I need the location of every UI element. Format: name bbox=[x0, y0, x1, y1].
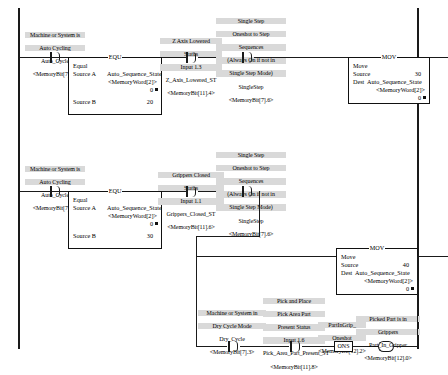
rung2-branch-left-vertical-long bbox=[196, 256, 197, 346]
rung2-part-in-gripper-label: Picked Part is in Grippers Part_In_Gripp… bbox=[356, 309, 420, 368]
rung2-pick-area-desc3: Present Status bbox=[263, 324, 325, 331]
contact-bar-right bbox=[56, 186, 60, 197]
rung2-wire-branch-left-vertical bbox=[196, 236, 197, 256]
rung2-mov-row-dest: Dest Auto_Sequence_State bbox=[341, 269, 413, 277]
rung2-mov-dest-value-dot bbox=[411, 287, 414, 290]
rung1-contact-single-step[interactable] bbox=[240, 52, 254, 63]
rung2-branch-right-vertical bbox=[417, 256, 418, 346]
rung2-equ-srca-value: 0 bbox=[150, 220, 153, 228]
rung1-equ-block[interactable]: EQU Equal Source A Auto_Sequence_State <… bbox=[68, 57, 162, 115]
rung2-ons-block[interactable]: ONS bbox=[334, 341, 353, 352]
rung1-equ-row-srca-addr: <MemoryWord[2]> bbox=[73, 78, 157, 86]
contact-bar-left bbox=[242, 52, 244, 63]
rung2-pick-area-desc1: Pick and Place bbox=[263, 298, 325, 305]
rung2-branch-coil-to-rail bbox=[394, 346, 418, 347]
rung2-mov-row-source: Source 40 bbox=[341, 261, 413, 269]
rung2-mov-dest-tag: Auto_Sequence_State bbox=[355, 269, 410, 277]
rung1-equ-row-srca: Source A Auto_Sequence_State bbox=[73, 70, 157, 78]
rung2-equ-body: Equal Source A Auto_Sequence_State <Memo… bbox=[69, 192, 161, 240]
rung1-mov-row-dest-addr: <MemoryWord[2]> bbox=[353, 86, 425, 94]
rung2-contact-grippers-closed[interactable] bbox=[184, 186, 198, 197]
rung1-equ-srcb-value: 20 bbox=[147, 98, 153, 106]
rung2-pick-area-desc2: Pick Area Part bbox=[263, 311, 325, 318]
rung1-mov-dest-value-dot bbox=[423, 96, 426, 99]
rung1-ss-desc3: Sequences bbox=[216, 44, 286, 51]
rung1-mov-source-value: 30 bbox=[415, 70, 421, 78]
rung2-part-in-gripper-desc1: Picked Part is in bbox=[356, 316, 420, 323]
rung1-equ-srca-value-dot bbox=[155, 88, 158, 91]
rung2-equ-op-name: Equal bbox=[73, 196, 87, 204]
rung2-mov-source-value: 40 bbox=[403, 261, 409, 269]
rung2-equ-block[interactable]: EQU Equal Source A Auto_Sequence_State <… bbox=[68, 191, 162, 249]
contact-bar-right bbox=[296, 341, 300, 352]
rung2-mov-dest-label: Dest bbox=[341, 269, 352, 277]
contact-bar-left bbox=[50, 52, 52, 63]
rung2-pick-area-label: Pick and Place Pick Area Part Present St… bbox=[263, 291, 325, 375]
rung2-mov-row-dest-val: 0 bbox=[341, 285, 413, 293]
rung2-equ-row-srca-val: 0 bbox=[73, 220, 157, 228]
rung2-equ-srca-address: <MemoryWord[2]> bbox=[108, 212, 157, 220]
rung1-ss-desc2: Oneshot to Step bbox=[216, 31, 286, 38]
rung2-contact-auto-cycle[interactable] bbox=[48, 186, 62, 197]
contact-bar-left bbox=[186, 52, 188, 63]
rung1-zaxis-label: Z Axis Lowered Status Input 1.3 Z_Axis_L… bbox=[160, 31, 222, 104]
rung2-ons-mnemonic: ONS bbox=[337, 343, 349, 349]
rung1-mov-dest-label: Dest bbox=[353, 78, 364, 86]
coil-right-half bbox=[386, 341, 394, 352]
rung1-mov-row-dest: Dest Auto_Sequence_State bbox=[353, 78, 425, 86]
rung1-zaxis-address: <MemoryBit[11].4> bbox=[160, 90, 222, 97]
rung2-equ-srcb-value: 30 bbox=[147, 232, 153, 240]
rung2-mov-row-op: Move bbox=[341, 253, 413, 261]
rung2-mov-block[interactable]: MOV Move Source 40 Dest Auto_Sequence_St… bbox=[336, 248, 418, 295]
rung2-mov-dest-address: <MemoryWord[2]> bbox=[364, 277, 413, 285]
rung2-mov-op-name: Move bbox=[341, 253, 355, 261]
rung1-equ-body: Equal Source A Auto_Sequence_State <Memo… bbox=[69, 58, 161, 106]
contact-bar-right bbox=[192, 186, 196, 197]
rung1-equ-op-name: Equal bbox=[73, 62, 87, 70]
contact-bar-right bbox=[192, 52, 196, 63]
rung2-wire-lower-main bbox=[196, 256, 336, 257]
rung2-part-in-gripper-desc2: Grippers bbox=[356, 329, 420, 336]
rung2-contact-dry-cycle[interactable] bbox=[226, 341, 240, 352]
rung1-ss-desc5: Single Step Mode) bbox=[216, 70, 286, 77]
rung1-contact-auto-cycle[interactable] bbox=[48, 52, 62, 63]
rung1-wire-ss-to-mov bbox=[254, 57, 349, 58]
rung2-grippers-address: <MemoryBit[11].6> bbox=[158, 224, 224, 231]
rung1-equ-row-op: Equal bbox=[73, 62, 157, 70]
rung2-coil-part-in-gripper[interactable] bbox=[378, 341, 394, 352]
rung2-part-in-gripper-address: <MemoryBit[12].0> bbox=[356, 355, 420, 362]
rung1-mov-row-op: Move bbox=[353, 62, 425, 70]
contact-bar-left bbox=[290, 341, 292, 352]
left-power-rail bbox=[18, 8, 20, 349]
rung2-contact-single-step[interactable] bbox=[240, 186, 254, 197]
rung1-contact-z-axis-lowered[interactable] bbox=[184, 52, 198, 63]
rung2-equ-row-srcb: Source B 30 bbox=[73, 232, 157, 240]
rung2-mov-dest-value: 0 bbox=[406, 285, 409, 293]
rung2-equ-row-op: Equal bbox=[73, 196, 157, 204]
rung2-wire-branch-top bbox=[196, 236, 260, 237]
rung2-wire-mov-to-right-rail bbox=[418, 256, 448, 257]
rung2-dry-cycle-desc1: Machine or System in bbox=[198, 310, 266, 317]
rung1-wire-mov-to-right-rail bbox=[430, 57, 448, 58]
rung2-wire-vertical-drop bbox=[259, 191, 260, 236]
rung2-auto-cycle-desc1: Machine or System is bbox=[25, 166, 85, 173]
rung1-equ-row-srcb: Source B 20 bbox=[73, 98, 157, 106]
rung2-grippers-desc3: Input 1.1 bbox=[158, 198, 224, 205]
rung1-equ-srca-label: Source A bbox=[73, 70, 96, 78]
rung2-equ-row-srca-addr: <MemoryWord[2]> bbox=[73, 212, 157, 220]
contact-bar-right bbox=[248, 186, 252, 197]
rung1-equ-srca-address: <MemoryWord[2]> bbox=[108, 78, 157, 86]
rung2-contact-pick-area-part-present[interactable] bbox=[288, 341, 302, 352]
rung1-mov-body: Move Source 30 Dest Auto_Sequence_State … bbox=[349, 58, 429, 102]
rung1-mov-block[interactable]: MOV Move Source 30 Dest Auto_Sequence_St… bbox=[348, 57, 430, 104]
rung1-mov-op-name: Move bbox=[353, 62, 367, 70]
rung1-mov-row-dest-val: 0 bbox=[353, 94, 425, 102]
rung2-equ-srca-tag: Auto_Sequence_State bbox=[107, 204, 162, 212]
rung1-mov-row-source: Source 30 bbox=[353, 70, 425, 78]
contact-bar-right bbox=[56, 52, 60, 63]
rung2-equ-srca-label: Source A bbox=[73, 204, 96, 212]
rung2-equ-row-srca: Source A Auto_Sequence_State bbox=[73, 204, 157, 212]
rung2-pick-area-address: <MemoryBit[11].8> bbox=[263, 364, 325, 371]
rung2-ss-desc3: Sequences bbox=[216, 178, 286, 185]
